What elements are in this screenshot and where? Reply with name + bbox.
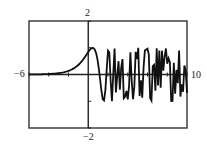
function-plot <box>0 0 207 148</box>
y-min-label: −2 <box>83 132 94 142</box>
y-max-label: 2 <box>85 8 90 18</box>
x-min-label: −6 <box>14 69 25 79</box>
x-max-label: 10 <box>191 70 201 80</box>
